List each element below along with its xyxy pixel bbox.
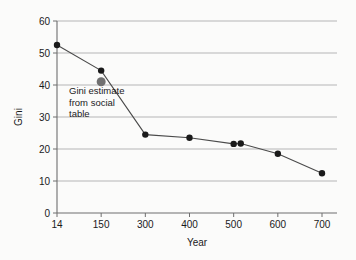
x-tick-label-700: 700 xyxy=(314,219,331,230)
x-axis-title: Year xyxy=(187,237,208,248)
social-table-annotation-line-2: from social xyxy=(69,97,115,108)
y-tick-label-10: 10 xyxy=(39,176,51,187)
data-point-500[interactable] xyxy=(230,141,236,147)
data-point-14[interactable] xyxy=(54,42,60,48)
data-point-520[interactable] xyxy=(238,140,244,146)
y-tick-label-30: 30 xyxy=(39,112,51,123)
chart-canvas: 010203040506014150300400500600700YearGin… xyxy=(0,0,356,260)
x-tick-label-300: 300 xyxy=(137,219,154,230)
data-point-300[interactable] xyxy=(142,131,148,137)
data-point-700[interactable] xyxy=(319,170,325,176)
series-line-gini xyxy=(57,45,322,173)
social-table-annotation-line-1: Gini estimate xyxy=(69,85,124,96)
data-point-150[interactable] xyxy=(98,67,104,73)
social-table-annotation: Gini estimatefrom socialtable xyxy=(69,85,124,119)
y-tick-label-20: 20 xyxy=(39,144,51,155)
y-tick-label-60: 60 xyxy=(39,16,51,27)
data-point-600[interactable] xyxy=(275,151,281,157)
data-point-400[interactable] xyxy=(186,135,192,141)
x-tick-label-14: 14 xyxy=(51,219,63,230)
y-tick-label-0: 0 xyxy=(44,208,50,219)
x-tick-label-500: 500 xyxy=(225,219,242,230)
gini-line-chart: 010203040506014150300400500600700YearGin… xyxy=(0,0,356,260)
y-tick-label-40: 40 xyxy=(39,80,51,91)
y-axis-title: Gini xyxy=(13,108,24,126)
y-tick-label-50: 50 xyxy=(39,48,51,59)
x-tick-label-400: 400 xyxy=(181,219,198,230)
social-table-annotation-line-3: table xyxy=(69,108,90,119)
x-tick-label-150: 150 xyxy=(93,219,110,230)
x-tick-label-600: 600 xyxy=(269,219,286,230)
